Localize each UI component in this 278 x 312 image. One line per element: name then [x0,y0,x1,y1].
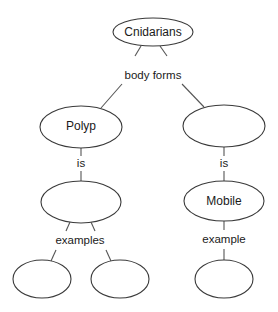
node-polyp-example-1 [13,260,71,298]
node-polyp: Polyp [40,106,122,148]
link-label-example: example [202,233,245,245]
edge-cnidarians-to-body-forms-left [135,46,141,56]
node-polyp-example-2 [91,260,149,298]
edge-body-forms-to-polyp [101,84,122,108]
edge-body-forms-to-right-form [182,84,204,107]
node-polyp-is-ellipse [41,181,121,223]
node-polyp-label: Polyp [66,119,96,133]
node-right-form-ellipse [183,105,265,147]
node-polyp-example-1-ellipse [13,260,71,298]
node-polyp-example-2-ellipse [91,260,149,298]
edge-examples-to-example-2 [106,250,111,261]
node-mobile: Mobile [184,181,264,221]
edge-examples-to-example-1 [51,250,56,261]
edge-cnidarians-to-body-forms-right [160,46,167,56]
node-mobile-example [195,260,253,298]
link-label-body-forms: body forms [125,69,182,81]
edge-polyp-is-to-examples-left [66,222,70,231]
node-mobile-example-ellipse [195,260,253,298]
node-cnidarians: Cnidarians [113,18,193,46]
node-polyp-is [41,181,121,223]
node-right-form [183,105,265,147]
link-label-right-is: is [220,157,229,169]
node-cnidarians-label: Cnidarians [124,25,181,39]
link-label-examples: examples [55,234,104,246]
concept-map: Cnidarians body forms Polyp is is Mobile… [0,0,278,312]
node-mobile-label: Mobile [206,194,242,208]
edge-polyp-is-to-examples-right [91,222,95,231]
link-label-polyp-is: is [77,157,86,169]
